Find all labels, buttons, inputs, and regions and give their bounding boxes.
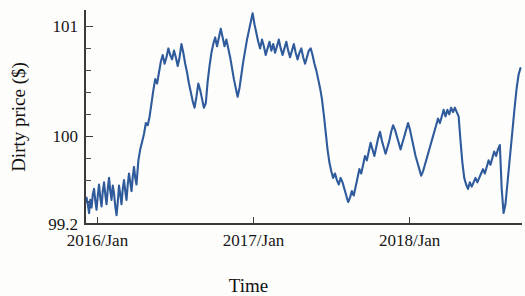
x-axis-tick-label: 2017/Jan [223, 231, 285, 250]
x-axis-tick-label: 2018/Jan [379, 231, 441, 250]
x-axis-title: Time [229, 275, 268, 296]
chart-figure: 99.21001012016/Jan2017/Jan2018/JanTimeDi… [0, 0, 525, 296]
data-series-line [87, 13, 521, 215]
y-axis-tick-label: 100 [53, 127, 79, 146]
x-axis-tick-label: 2016/Jan [67, 231, 129, 250]
y-axis-title: Dirty price ($) [8, 62, 30, 172]
chart-plot-svg: 99.21001012016/Jan2017/Jan2018/JanTimeDi… [0, 0, 525, 296]
y-axis-tick-label: 101 [53, 17, 79, 36]
